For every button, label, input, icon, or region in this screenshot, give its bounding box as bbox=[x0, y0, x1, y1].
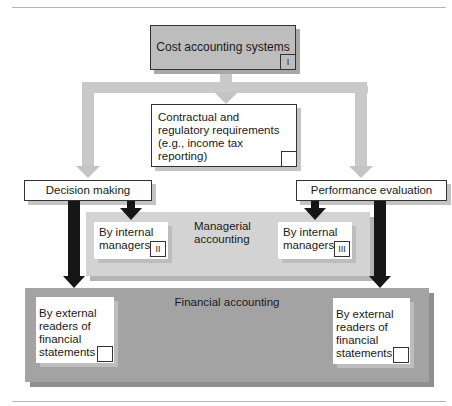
center-light-arrow-shaft bbox=[220, 70, 232, 92]
managerial-accounting-panel: Managerial accounting By internal manage… bbox=[86, 212, 370, 276]
decision-making-box: Decision making bbox=[24, 180, 152, 201]
external-line-3: financial bbox=[336, 334, 410, 347]
right-light-arrow-shaft bbox=[355, 82, 367, 168]
center-light-arrow-head bbox=[214, 92, 238, 104]
external-line-1: By external bbox=[336, 308, 410, 321]
performance-evaluation-box: Performance evaluation bbox=[296, 180, 447, 201]
external-line-2: readers of bbox=[39, 320, 114, 333]
internal-line-1: By internal bbox=[283, 226, 352, 239]
external-line-3: financial bbox=[39, 333, 114, 346]
cost-accounting-systems-label: Cost accounting systems bbox=[151, 41, 295, 54]
bottom-rule bbox=[12, 401, 446, 402]
left-light-arrow-head bbox=[76, 166, 100, 178]
internal-managers-box-iii: By internal managers III bbox=[278, 222, 352, 259]
empty-numeral-badge bbox=[393, 347, 409, 363]
internal-managers-box-ii: By internal managers II bbox=[94, 222, 168, 259]
contractual-line-3: (e.g., income tax bbox=[158, 137, 296, 150]
contractual-line-4: reporting) bbox=[158, 150, 296, 163]
empty-numeral-badge bbox=[281, 151, 297, 167]
roman-numeral-badge: I bbox=[280, 54, 296, 70]
performance-evaluation-label: Performance evaluation bbox=[311, 184, 432, 196]
right-light-arrow-head bbox=[349, 166, 373, 178]
roman-numeral-badge: III bbox=[334, 241, 350, 257]
contractual-requirements-box: Contractual and regulatory requirements … bbox=[151, 104, 297, 167]
decision-to-financial-arrow-head bbox=[63, 276, 85, 288]
external-readers-box-right: By external readers of financial stateme… bbox=[333, 298, 410, 364]
managerial-line-1: Managerial bbox=[194, 220, 274, 233]
external-line-1: By external bbox=[39, 307, 114, 320]
decision-to-managerial-arrow-head bbox=[120, 208, 142, 220]
empty-numeral-badge bbox=[97, 346, 113, 362]
performance-to-financial-arrow-shaft bbox=[374, 201, 386, 276]
external-line-2: readers of bbox=[336, 321, 410, 334]
top-rule bbox=[12, 7, 446, 8]
decision-making-label: Decision making bbox=[46, 184, 130, 196]
left-light-arrow-shaft bbox=[82, 82, 94, 168]
performance-to-financial-arrow-head bbox=[369, 276, 391, 288]
roman-numeral-badge: II bbox=[150, 241, 166, 257]
internal-line-1: By internal bbox=[99, 226, 168, 239]
external-readers-box-left: By external readers of financial stateme… bbox=[36, 297, 114, 363]
cost-accounting-systems-box: Cost accounting systems I bbox=[150, 25, 296, 70]
managerial-line-2: accounting bbox=[194, 233, 274, 246]
performance-to-managerial-arrow-head bbox=[304, 208, 326, 220]
managerial-accounting-label: Managerial accounting bbox=[194, 220, 274, 246]
decision-to-financial-arrow-shaft bbox=[68, 201, 80, 276]
financial-accounting-panel: Financial accounting By external readers… bbox=[25, 288, 429, 382]
contractual-line-2: regulatory requirements bbox=[158, 124, 296, 137]
contractual-line-1: Contractual and bbox=[158, 111, 296, 124]
